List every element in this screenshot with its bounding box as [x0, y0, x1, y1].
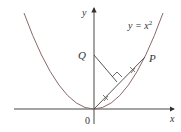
y-axis-label: y — [81, 7, 87, 18]
curve-label: y = x2 — [127, 19, 153, 31]
point-q-label: Q — [78, 49, 86, 61]
point-p-label: P — [148, 52, 156, 64]
x-axis-label: x — [169, 113, 175, 124]
segment-q-perp — [94, 55, 117, 82]
parabola-diagram: y x 0 Q P y = x2 — [0, 0, 181, 132]
segment-op — [94, 57, 145, 109]
origin-label: 0 — [85, 115, 90, 126]
right-angle-mark — [112, 72, 122, 77]
